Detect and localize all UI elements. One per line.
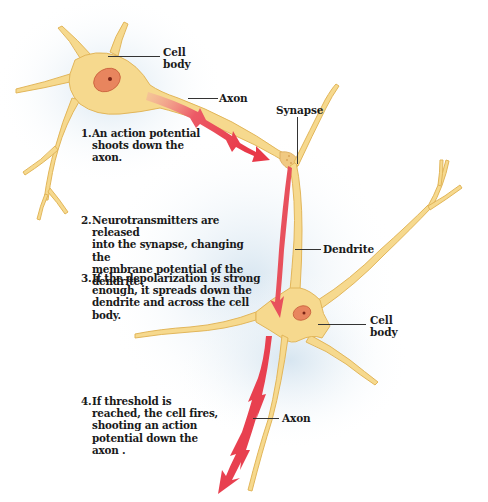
leader-line [297, 117, 298, 164]
leader-line [253, 418, 279, 419]
label-cell-body-top: Cell body [163, 46, 190, 70]
dendrite-branch [37, 194, 48, 220]
label-axon-top: Axon [219, 92, 248, 104]
step-4: 4. If threshold is reached, the cell fir… [81, 395, 221, 456]
leader-line [295, 249, 321, 250]
step-1: 1. An action potential shoots down the a… [81, 127, 231, 164]
leader-line [318, 324, 366, 325]
leader-line [108, 56, 160, 57]
label-cell-body-bottom: Cell body [370, 314, 397, 338]
label-axon-bottom: Axon [282, 412, 311, 424]
leader-line [188, 98, 218, 99]
dendrite-branch [48, 188, 68, 214]
nucleolus [108, 77, 112, 81]
label-dendrite: Dendrite [323, 243, 374, 255]
nucleolus [303, 312, 306, 315]
step-3: 3. If the depolarization is strong enoug… [81, 272, 261, 321]
label-synapse: Synapse [276, 104, 323, 116]
